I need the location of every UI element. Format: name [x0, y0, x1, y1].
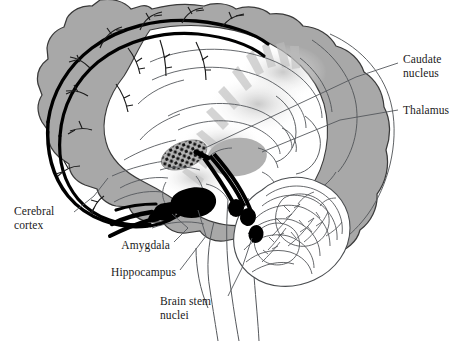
label-brain-stem-nuclei-line2: nuclei	[160, 309, 211, 323]
label-hippocampus-line1: Hippocampus	[20, 266, 176, 280]
label-caudate-nucleus: Caudate nucleus	[403, 53, 441, 80]
label-cerebral-cortex: Cerebral cortex	[14, 205, 54, 232]
label-hippocampus: Hippocampus	[20, 266, 176, 280]
label-amygdala-line1: Amygdala	[40, 239, 170, 253]
label-thalamus: Thalamus	[403, 104, 449, 118]
label-brain-stem-nuclei: Brain stem nuclei	[160, 295, 211, 322]
label-amygdala: Amygdala	[40, 239, 170, 253]
brain-diagram-figure: Caudate nucleus Thalamus Cerebral cortex…	[0, 0, 467, 341]
label-cerebral-cortex-line1: Cerebral	[14, 205, 54, 219]
label-caudate-nucleus-line2: nucleus	[403, 67, 441, 81]
brain-illustration	[0, 0, 467, 341]
label-caudate-nucleus-line1: Caudate	[403, 53, 441, 67]
label-cerebral-cortex-line2: cortex	[14, 219, 54, 233]
label-thalamus-line1: Thalamus	[403, 104, 449, 118]
label-brain-stem-nuclei-line1: Brain stem	[160, 295, 211, 309]
